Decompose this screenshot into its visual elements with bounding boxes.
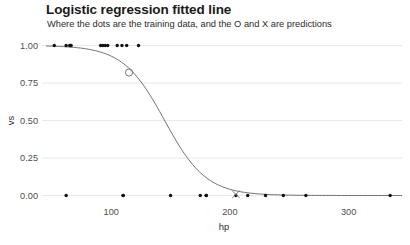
data-point <box>388 194 391 197</box>
chart-container: Logistic regression fitted line Where th… <box>0 0 410 245</box>
data-point <box>120 44 123 47</box>
gridlines <box>42 46 402 196</box>
data-point <box>137 44 140 47</box>
data-point <box>69 44 72 47</box>
data-point <box>304 194 307 197</box>
data-point <box>121 194 124 197</box>
data-point <box>264 194 267 197</box>
data-point <box>116 44 119 47</box>
data-point <box>64 44 67 47</box>
y-tick-label: 0.75 <box>20 78 38 88</box>
y-tick-label: 0.00 <box>20 191 38 201</box>
data-point <box>125 44 128 47</box>
y-tick-labels: 0.000.250.500.751.00 <box>20 41 38 201</box>
data-point <box>205 194 208 197</box>
x-tick-label: 200 <box>222 207 237 217</box>
prediction-markers <box>125 69 239 198</box>
data-point <box>282 194 285 197</box>
x-tick-label: 100 <box>104 207 119 217</box>
prediction-o-marker <box>125 69 132 76</box>
data-point <box>246 194 249 197</box>
data-point <box>199 194 202 197</box>
data-point <box>64 194 67 197</box>
y-tick-label: 0.50 <box>20 116 38 126</box>
y-axis-label: vs <box>5 116 16 126</box>
y-tick-label: 0.25 <box>20 153 38 163</box>
x-tick-label: 300 <box>341 207 356 217</box>
plot-area: 0.000.250.500.751.00 100200300 vs hp <box>0 0 410 245</box>
y-tick-label: 1.00 <box>20 41 38 51</box>
x-tick-labels: 100200300 <box>104 207 357 217</box>
data-point <box>106 44 109 47</box>
x-axis-label: hp <box>219 221 229 232</box>
data-point <box>53 44 56 47</box>
data-point <box>169 194 172 197</box>
